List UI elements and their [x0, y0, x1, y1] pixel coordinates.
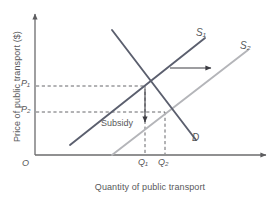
supply-curve-s1 — [70, 38, 205, 145]
curve-label-d: D — [192, 133, 199, 143]
curve-label-s2: S₂ — [240, 41, 250, 51]
curves — [70, 30, 248, 155]
axes — [35, 14, 266, 155]
supply-curve-s2 — [112, 50, 248, 155]
quantity-tick-q2: Q₂ — [158, 158, 168, 167]
origin-label: O — [22, 159, 29, 168]
annotation-arrows — [145, 68, 211, 122]
chart-canvas — [0, 0, 279, 197]
quantity-tick-q1: Q₁ — [138, 158, 148, 167]
price-tick-p1: P₁ — [21, 79, 30, 88]
subsidy-annotation-label: Subsidy — [101, 119, 133, 128]
price-tick-p2: P₂ — [21, 105, 30, 114]
x-axis-label: Quantity of public transport — [70, 183, 230, 192]
curve-label-s1: S₁ — [196, 28, 206, 38]
supply-demand-subsidy-chart: Price of public transport ($) Quantity o… — [0, 0, 279, 197]
